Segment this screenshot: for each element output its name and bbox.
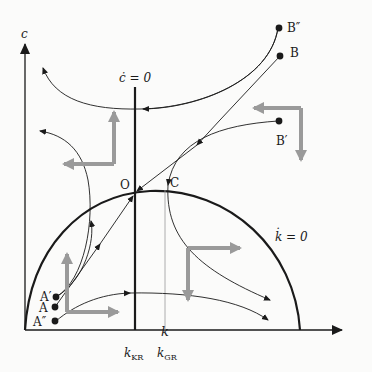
- tick-k-kr-sub: KR: [131, 353, 143, 362]
- phase-diagram-canvas: c k ċ = 0 k̇ = 0 kKR kGR O C B″ B B′ A′ …: [0, 0, 372, 372]
- c-dot-zero-label: ċ = 0: [119, 72, 151, 84]
- point-b-prime: [276, 118, 283, 125]
- y-axis-label: c: [21, 28, 28, 40]
- tick-k-kr: kKR: [124, 347, 143, 362]
- k-dot-zero-label: k̇ = 0: [275, 231, 308, 243]
- phase-diagram-svg: [0, 0, 372, 372]
- label-b: B: [290, 47, 299, 59]
- x-axis-label: k: [161, 325, 169, 338]
- point-b-double-prime: [276, 25, 283, 32]
- tick-k-gr: kGR: [157, 347, 177, 362]
- label-a: A: [39, 302, 48, 314]
- point-a: [52, 304, 59, 311]
- label-b-prime: B′: [276, 135, 288, 147]
- point-b: [277, 53, 284, 60]
- point-a-prime: [53, 294, 60, 301]
- tick-k-gr-sub: GR: [164, 353, 176, 362]
- direction-arrows: [64, 108, 301, 312]
- label-b-double-prime: B″: [287, 22, 300, 34]
- label-c: C: [170, 177, 179, 189]
- label-o: O: [120, 179, 130, 191]
- trajectories: [40, 28, 280, 321]
- label-a-double-prime: A″: [33, 316, 46, 328]
- point-a-double-prime: [52, 318, 59, 325]
